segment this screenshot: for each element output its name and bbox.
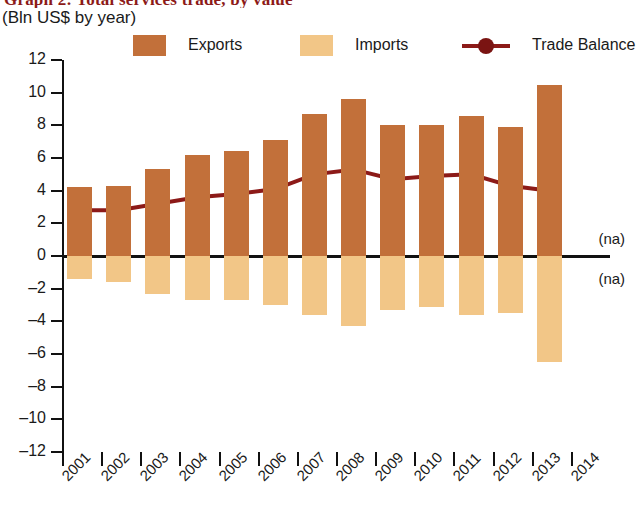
y-axis-tick — [51, 451, 62, 453]
y-axis-tick-label: 12 — [2, 50, 46, 68]
y-axis-tick-label: 4 — [2, 181, 46, 199]
y-axis-tick — [51, 157, 62, 159]
legend-label-trade-balance: Trade Balance — [532, 36, 635, 54]
bar-imports — [67, 256, 92, 279]
bar-exports — [224, 151, 249, 256]
y-axis-tick-label: 0 — [2, 246, 46, 264]
bar-imports — [537, 256, 562, 362]
y-axis-tick — [51, 418, 62, 420]
x-axis-tick — [62, 452, 64, 466]
bar-imports — [341, 256, 366, 326]
plot-area: 121086420–2–4–6–8–10–1220012002200320042… — [62, 60, 610, 452]
bar-imports — [419, 256, 444, 307]
bar-exports — [498, 127, 523, 256]
y-axis-tick-label: 6 — [2, 148, 46, 166]
bar-imports — [498, 256, 523, 313]
y-axis-tick — [51, 320, 62, 322]
bar-exports — [145, 169, 170, 256]
na-annotation: (na) — [598, 270, 625, 287]
bar-imports — [224, 256, 249, 300]
bar-imports — [459, 256, 484, 315]
y-axis-tick-label: –8 — [2, 377, 46, 395]
x-axis-tick — [140, 452, 142, 466]
y-axis-tick — [51, 353, 62, 355]
y-axis-tick — [51, 124, 62, 126]
x-axis-tick — [258, 452, 260, 466]
x-axis-tick — [571, 452, 573, 466]
x-axis-tick — [493, 452, 495, 466]
legend-item-imports[interactable]: Imports — [300, 30, 408, 60]
chart-container: Graph 2: Total services trade, by value … — [0, 0, 642, 511]
bar-exports — [419, 125, 444, 256]
trade-balance-line-series — [62, 60, 610, 452]
bar-exports — [341, 99, 366, 256]
bar-imports — [145, 256, 170, 294]
y-axis-tick — [51, 255, 62, 257]
x-axis-tick — [375, 452, 377, 466]
x-axis-tick — [532, 452, 534, 466]
x-axis-tick — [101, 452, 103, 466]
bar-imports — [263, 256, 288, 305]
x-axis-tick — [297, 452, 299, 466]
legend-item-exports[interactable]: Exports — [133, 30, 242, 60]
bar-exports — [537, 85, 562, 257]
y-axis-tick — [51, 92, 62, 94]
bar-exports — [67, 187, 92, 256]
x-axis-tick — [336, 452, 338, 466]
chart-subtitle: (Bln US$ by year) — [2, 8, 136, 28]
exports-color-swatch — [133, 35, 166, 56]
imports-color-swatch — [300, 35, 333, 56]
y-axis-tick — [51, 386, 62, 388]
y-axis-tick-label: –4 — [2, 311, 46, 329]
y-axis-tick — [51, 190, 62, 192]
bar-exports — [106, 186, 131, 256]
x-axis-tick — [219, 452, 221, 466]
chart-title: Graph 2: Total services trade, by value — [4, 0, 634, 8]
y-axis-tick-label: 2 — [2, 213, 46, 231]
legend-label-imports: Imports — [355, 36, 408, 54]
bar-imports — [302, 256, 327, 315]
y-axis-tick-label: 8 — [2, 115, 46, 133]
x-axis-tick — [453, 452, 455, 466]
y-axis-tick — [51, 288, 62, 290]
y-axis-tick-label: –10 — [2, 409, 46, 427]
bar-imports — [380, 256, 405, 310]
bar-imports — [185, 256, 210, 300]
bar-exports — [185, 155, 210, 256]
x-axis-tick — [179, 452, 181, 466]
bar-exports — [380, 125, 405, 256]
trade-balance-line-marker-icon — [462, 35, 510, 56]
chart-legend: Exports Imports Trade Balance — [0, 30, 642, 60]
y-axis-tick — [51, 59, 62, 61]
bar-exports — [263, 140, 288, 256]
y-axis-tick-label: –6 — [2, 344, 46, 362]
bar-exports — [302, 114, 327, 256]
bar-imports — [106, 256, 131, 282]
y-axis-tick — [51, 222, 62, 224]
legend-label-exports: Exports — [188, 36, 242, 54]
y-axis-tick-label: 10 — [2, 83, 46, 101]
x-axis-tick — [414, 452, 416, 466]
na-annotation: (na) — [598, 230, 625, 247]
y-axis-tick-label: –12 — [2, 442, 46, 460]
legend-item-trade-balance[interactable]: Trade Balance — [462, 30, 635, 60]
bar-exports — [459, 116, 484, 256]
y-axis-tick-label: –2 — [2, 279, 46, 297]
